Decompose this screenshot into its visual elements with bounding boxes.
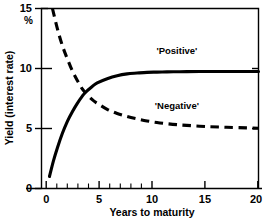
y-tick-label-15: 15: [20, 2, 32, 14]
x-tick-label-5: 5: [96, 193, 102, 205]
y-tick-label-5: 5: [26, 122, 32, 134]
yield-curve-chart: 0 5 10 15 % Yield (interest rate): [0, 0, 273, 221]
y-tick-label-10: 10: [20, 62, 32, 74]
x-tick-label-0: 0: [43, 193, 49, 205]
y-axis-title: Yield (interest rate): [3, 51, 15, 146]
y-axis-unit-label: %: [24, 15, 33, 26]
x-axis-title: Years to maturity: [109, 206, 194, 218]
x-tick-label-20: 20: [250, 193, 262, 205]
chart-canvas: 0 5 10 15 % Yield (interest rate): [0, 0, 273, 221]
y-tick-label-0: 0: [26, 182, 32, 194]
x-tick-label-15: 15: [199, 193, 211, 205]
x-tick-label-10: 10: [146, 193, 158, 205]
positive-series-label: 'Positive': [156, 45, 197, 56]
negative-series-label: 'Negative': [155, 100, 199, 111]
